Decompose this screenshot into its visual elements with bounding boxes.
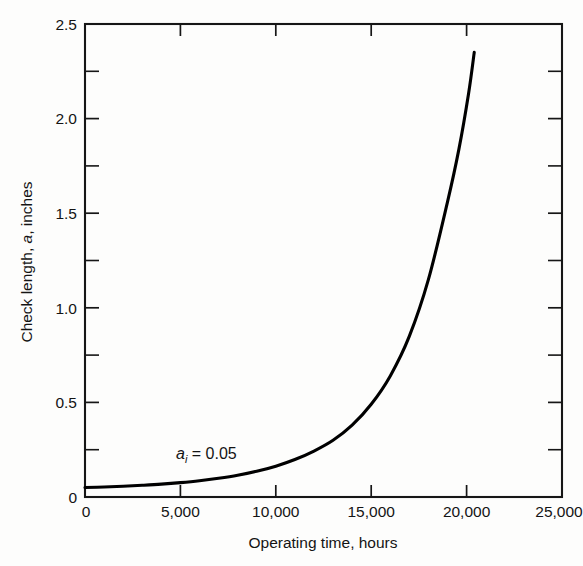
annotation-value: 0.05 [206, 445, 237, 462]
annotation-equals: = [187, 445, 205, 462]
y-tick-label-1.5: 1.5 [55, 205, 77, 222]
plot-frame [85, 24, 562, 497]
y-tick-label-2.0: 2.0 [55, 110, 77, 127]
x-axis-title: Operating time, hours [248, 534, 397, 551]
annotation-initial-check-length: ai = 0.05 [176, 445, 237, 465]
y-axis-title-suffix: , inches [18, 181, 35, 235]
x-tick-label-15000: 15,000 [347, 503, 395, 520]
y-tick-label-2.5: 2.5 [55, 16, 77, 33]
y-tick-label-0: 0 [68, 489, 77, 506]
x-tick-label-10000: 10,000 [252, 503, 300, 520]
x-tick-label-0: 0 [82, 503, 91, 520]
x-tick-label-25000: 25,000 [535, 503, 583, 520]
figure-container: 0 5,000 10,000 15,000 20,000 25,000 0 0.… [0, 0, 583, 566]
y-tick-label-0.5: 0.5 [55, 394, 77, 411]
y-axis-title-prefix: Check length, [18, 243, 35, 342]
x-tick-label-20000: 20,000 [443, 503, 491, 520]
y-tick-label-1.0: 1.0 [55, 300, 77, 317]
chart-svg: 0 5,000 10,000 15,000 20,000 25,000 0 0.… [0, 0, 583, 566]
x-tick-label-5000: 5,000 [161, 503, 200, 520]
x-axis-ticks [180, 24, 466, 497]
annotation-symbol: a [176, 445, 185, 462]
y-axis-ticks [85, 71, 562, 449]
y-tick-labels: 0 0.5 1.0 1.5 2.0 2.5 [55, 16, 77, 506]
data-series-line [85, 52, 474, 487]
y-axis-title: Check length, a, inches [18, 181, 35, 342]
x-tick-labels: 0 5,000 10,000 15,000 20,000 25,000 [82, 503, 583, 520]
